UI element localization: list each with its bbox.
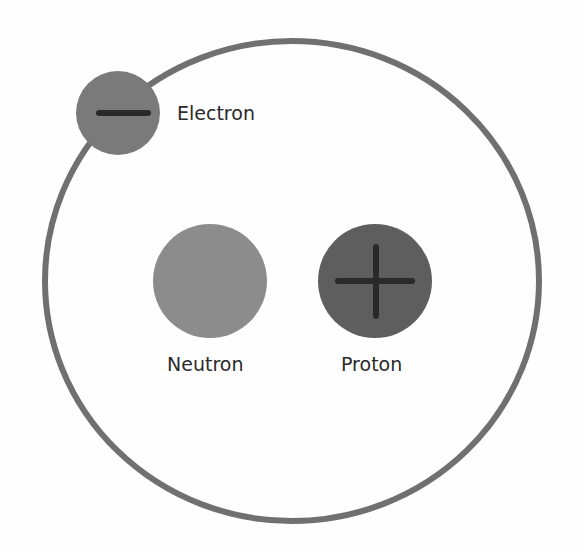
neutron-particle — [153, 224, 267, 338]
atom-diagram: Electron Neutron Proton — [0, 0, 582, 554]
proton-particle — [318, 224, 432, 338]
neutron-circle — [153, 224, 267, 338]
electron-particle — [76, 71, 160, 155]
proton-label: Proton — [341, 355, 402, 374]
electron-label: Electron — [177, 104, 255, 123]
neutron-label: Neutron — [167, 355, 243, 374]
atom-diagram-graphic — [0, 0, 582, 554]
